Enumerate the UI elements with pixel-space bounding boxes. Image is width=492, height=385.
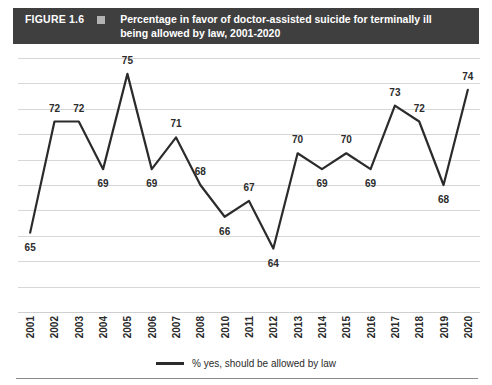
x-axis-label: 2019 (438, 316, 449, 338)
data-label: 72 (73, 102, 84, 113)
data-label: 66 (219, 225, 230, 236)
x-axis-label: 2017 (389, 316, 400, 338)
data-label: 75 (122, 54, 133, 65)
figure-title: Percentage in favor of doctor-assisted s… (120, 13, 450, 40)
square-marker-icon (97, 16, 105, 24)
x-axis-label: 2006 (146, 316, 157, 338)
data-label: 64 (268, 257, 279, 268)
legend-label: % yes, should be allowed by law (192, 358, 336, 369)
data-label: 70 (292, 134, 303, 145)
x-axis-label: 2007 (171, 316, 182, 338)
x-axis-label: 2010 (219, 316, 230, 338)
data-label: 70 (341, 134, 352, 145)
data-label: 68 (195, 166, 206, 177)
data-label: 69 (365, 178, 376, 189)
x-axis-label: 2004 (98, 316, 109, 338)
x-axis-label: 2012 (268, 316, 279, 338)
x-axis-label: 2005 (122, 316, 133, 338)
data-label: 69 (146, 178, 157, 189)
data-label: 71 (170, 118, 181, 129)
data-label: 73 (389, 86, 400, 97)
series-polyline (30, 74, 468, 249)
bottom-divider (16, 378, 478, 379)
data-label: 69 (316, 178, 327, 189)
data-label: 72 (414, 102, 425, 113)
x-axis-label: 2020 (462, 316, 473, 338)
x-axis-label: 2016 (365, 316, 376, 338)
x-axis-label: 2011 (244, 316, 255, 338)
x-axis-labels: 2001200220032004200520062007200820102011… (18, 316, 480, 356)
chart-plot-area: 65727269756971686667647069706973726874 (18, 58, 480, 312)
x-axis-label: 2015 (341, 316, 352, 338)
x-axis-label: 2018 (414, 316, 425, 338)
x-axis-label: 2002 (49, 316, 60, 338)
x-axis-label: 2003 (73, 316, 84, 338)
x-axis-label: 2014 (316, 316, 327, 338)
x-axis-label: 2001 (25, 316, 36, 338)
figure-header: FIGURE 1.6 Percentage in favor of doctor… (13, 8, 479, 44)
data-label: 74 (462, 70, 473, 81)
x-axis-line (18, 312, 480, 313)
chart-legend: % yes, should be allowed by law (0, 358, 492, 369)
figure-number: FIGURE 1.6 (13, 13, 84, 26)
data-label: 67 (243, 181, 254, 192)
data-label: 72 (49, 102, 60, 113)
x-axis-label: 2008 (195, 316, 206, 338)
data-label: 68 (438, 194, 449, 205)
data-label: 69 (98, 178, 109, 189)
legend-line-swatch (156, 362, 184, 365)
data-label: 65 (25, 241, 36, 252)
x-axis-label: 2013 (292, 316, 303, 338)
